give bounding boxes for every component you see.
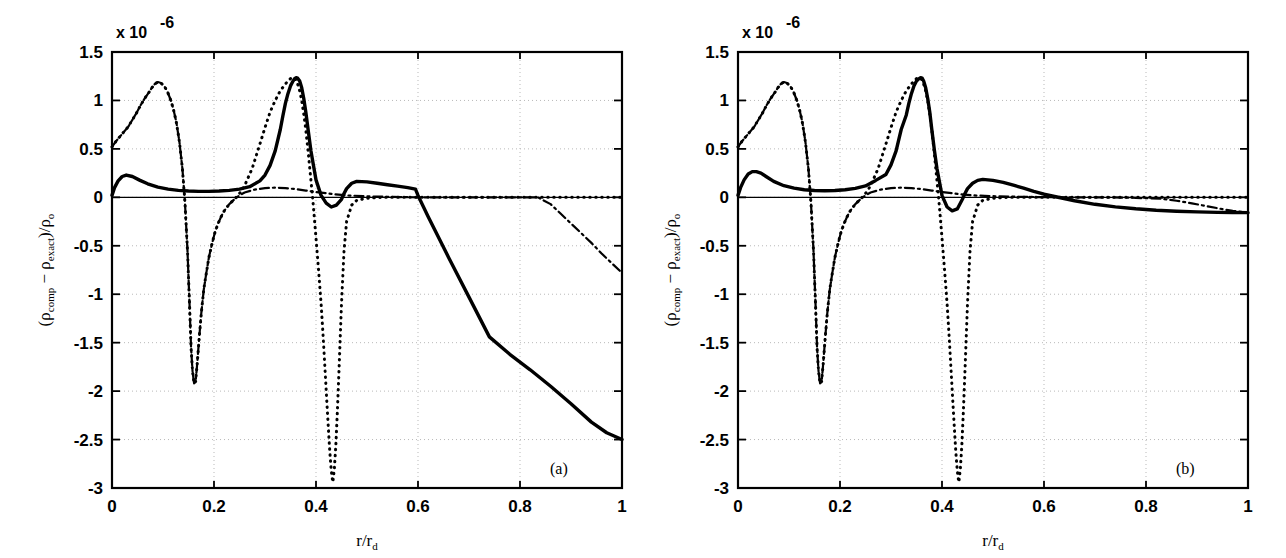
y-tick-label: -2.5 [74, 431, 103, 450]
y-axis-title: (ρcomp − ρexact)/ρo [661, 213, 682, 326]
y-tick-label: 0 [94, 188, 103, 207]
y-axis-exponent: x 10-6 [116, 14, 174, 41]
x-tick-label: 0 [733, 497, 742, 516]
x-tick-label: 0.4 [304, 497, 328, 516]
y-tick-label: -1.5 [74, 334, 103, 353]
panel-b: 00.20.40.60.81-3-2.5-2-1.5-1-0.500.511.5… [626, 0, 1286, 558]
panel-a-plot: 00.20.40.60.81-3-2.5-2-1.5-1-0.500.511.5… [0, 0, 660, 558]
y-tick-label: 1.5 [79, 43, 103, 62]
y-tick-label: -1 [714, 285, 729, 304]
tick-labels: 00.20.40.60.81-3-2.5-2-1.5-1-0.500.511.5 [700, 43, 1253, 516]
y-tick-label: -1.5 [700, 334, 729, 353]
svg-text:(ρcomp − ρexact)/ρo: (ρcomp − ρexact)/ρo [35, 213, 56, 326]
series-group [738, 78, 1248, 483]
svg-text:x 10: x 10 [742, 24, 773, 41]
y-tick-label: -3 [714, 479, 729, 498]
x-tick-label: 0.4 [930, 497, 954, 516]
svg-text:x 10: x 10 [116, 24, 147, 41]
panel-a: 00.20.40.60.81-3-2.5-2-1.5-1-0.500.511.5… [0, 0, 660, 558]
y-tick-label: -2 [714, 382, 729, 401]
y-tick-label: 1.5 [705, 43, 729, 62]
series-dashdot [112, 82, 622, 383]
svg-text:-6: -6 [160, 14, 174, 31]
x-axis-title: r/rd [356, 531, 378, 552]
y-tick-label: -0.5 [700, 237, 729, 256]
tick-labels: 00.20.40.60.81-3-2.5-2-1.5-1-0.500.511.5 [74, 43, 627, 516]
svg-text:(ρcomp − ρexact)/ρo: (ρcomp − ρexact)/ρo [661, 213, 682, 326]
panel-tag: (a) [550, 460, 568, 478]
y-tick-label: -2 [88, 382, 103, 401]
svg-text:r/rd: r/rd [982, 531, 1004, 552]
x-tick-label: 0.8 [508, 497, 532, 516]
x-axis-title: r/rd [982, 531, 1004, 552]
series-solid [738, 78, 1248, 213]
svg-text:r/rd: r/rd [356, 531, 378, 552]
y-tick-label: -2.5 [700, 431, 729, 450]
series-group [112, 78, 622, 483]
x-tick-label: 0 [107, 497, 116, 516]
panel-b-plot: 00.20.40.60.81-3-2.5-2-1.5-1-0.500.511.5… [626, 0, 1286, 558]
x-tick-label: 0.2 [828, 497, 852, 516]
y-tick-label: 1 [94, 91, 103, 110]
x-tick-label: 0.6 [1032, 497, 1056, 516]
y-tick-label: 0.5 [705, 140, 729, 159]
series-dashdot [738, 82, 1248, 383]
svg-text:-6: -6 [786, 14, 800, 31]
panel-tag: (b) [1176, 460, 1195, 478]
x-tick-label: 0.6 [406, 497, 430, 516]
y-tick-label: -0.5 [74, 237, 103, 256]
x-tick-label: 0.2 [202, 497, 226, 516]
y-axis-title: (ρcomp − ρexact)/ρo [35, 213, 56, 326]
y-tick-label: 1 [720, 91, 729, 110]
y-tick-label: 0 [720, 188, 729, 207]
y-tick-label: -1 [88, 285, 103, 304]
x-tick-label: 0.8 [1134, 497, 1158, 516]
x-tick-label: 1 [1243, 497, 1252, 516]
y-axis-exponent: x 10-6 [742, 14, 800, 41]
y-tick-label: 0.5 [79, 140, 103, 159]
y-tick-label: -3 [88, 479, 103, 498]
figure-container: 00.20.40.60.81-3-2.5-2-1.5-1-0.500.511.5… [0, 0, 1286, 558]
